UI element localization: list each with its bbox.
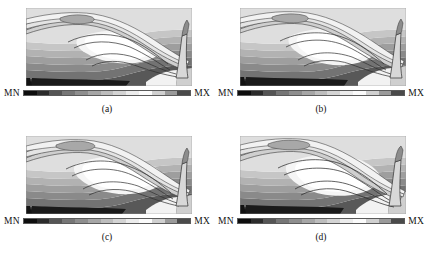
panel-caption-b: (b) [214, 104, 428, 114]
contour-plot-d [240, 136, 406, 214]
contour-plot-c [26, 136, 192, 214]
colorbar-legend-c: MN MX [4, 214, 210, 228]
panel-b: MN MX (b) [214, 0, 428, 128]
contour-plot-b [240, 8, 406, 86]
colorbar-legend-b: MN MX [218, 86, 424, 100]
contour-plot-a [26, 8, 192, 86]
contour-svg-c [26, 136, 192, 214]
legend-min-label-b: MN [218, 88, 234, 98]
colorbar-d [237, 218, 406, 224]
colorbar-legend-d: MN MX [218, 214, 424, 228]
figure-contour-grid: MN MX (a) [0, 0, 428, 256]
contour-svg-a [26, 8, 192, 86]
colorbar-b [237, 90, 406, 96]
panel-c: MN MX (c) [0, 128, 214, 256]
panel-caption-a: (a) [0, 104, 214, 114]
colorbar-c [23, 218, 192, 224]
legend-max-label-a: MX [194, 88, 210, 98]
legend-min-label-a: MN [4, 88, 20, 98]
contour-svg-d [240, 136, 406, 214]
legend-max-label-c: MX [194, 216, 210, 226]
legend-max-label-b: MX [408, 88, 424, 98]
legend-min-label-d: MN [218, 216, 234, 226]
contour-svg-b [240, 8, 406, 86]
panel-d: MN MX (d) [214, 128, 428, 256]
panel-caption-c: (c) [0, 232, 214, 242]
colorbar-a [23, 90, 192, 96]
colorbar-legend-a: MN MX [4, 86, 210, 100]
legend-min-label-c: MN [4, 216, 20, 226]
panel-caption-d: (d) [214, 232, 428, 242]
legend-max-label-d: MX [408, 216, 424, 226]
panel-a: MN MX (a) [0, 0, 214, 128]
